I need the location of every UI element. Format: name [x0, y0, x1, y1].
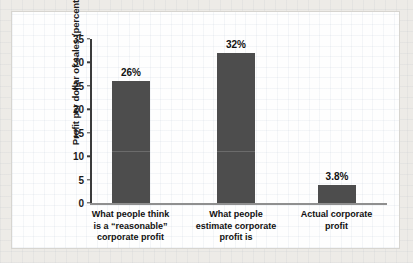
y-tick-mark-5 [87, 179, 91, 180]
bar-value-label-1: 32% [226, 39, 246, 50]
bar-estimated-profit: 32% [217, 53, 255, 203]
y-tick-mark-10 [87, 155, 91, 156]
bar-value-label-0: 26% [121, 67, 141, 78]
y-tick-mark-0 [87, 202, 91, 203]
y-tick-mark-25 [87, 85, 91, 86]
y-tick-label-5: 5 [78, 174, 84, 185]
y-tick-mark-15 [87, 132, 91, 133]
x-category-label-0: What people think is a “reasonable” corp… [78, 209, 183, 244]
chart-container: Profit per dollar of sales (percentage) … [0, 0, 413, 263]
bar-gridline-overlay [217, 151, 255, 152]
y-tick-label-10: 10 [73, 151, 84, 162]
y-tick-label-15: 15 [73, 127, 84, 138]
chart-panel: Profit per dollar of sales (percentage) … [11, 11, 400, 249]
bar-actual-profit: 3.8% [318, 185, 356, 203]
bar-value-label-2: 3.8% [326, 171, 349, 182]
x-category-label-1: What people estimate corporate profit is [185, 209, 287, 244]
bar-gridline-overlay [112, 151, 150, 152]
x-category-label-2: Actual corporate profit [288, 209, 385, 232]
plot-area: 35 30 25 20 15 10 5 0 26% 32% [90, 39, 387, 203]
bar-reasonable-profit: 26% [112, 81, 150, 203]
x-axis-line [90, 203, 387, 205]
y-tick-label-30: 30 [73, 57, 84, 68]
y-tick-mark-30 [87, 62, 91, 63]
y-tick-label-0: 0 [78, 198, 84, 209]
y-tick-mark-20 [87, 109, 91, 110]
y-tick-label-20: 20 [73, 104, 84, 115]
y-tick-label-35: 35 [73, 34, 84, 45]
y-tick-mark-35 [87, 38, 91, 39]
y-axis-line [90, 39, 92, 203]
y-tick-label-25: 25 [73, 80, 84, 91]
